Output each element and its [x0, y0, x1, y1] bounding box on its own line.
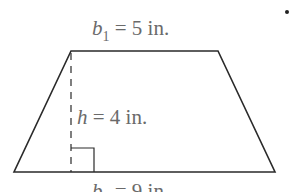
trapezoid-diagram: b1 = 5 in. h = 4 in. b2 = 9 in.	[0, 0, 290, 192]
stray-mark	[285, 10, 289, 14]
bottom-base-label: b2 = 9 in.	[92, 179, 169, 192]
height-label: h = 4 in.	[77, 105, 147, 129]
right-angle-marker	[71, 148, 94, 172]
top-base-label: b1 = 5 in.	[92, 16, 169, 44]
